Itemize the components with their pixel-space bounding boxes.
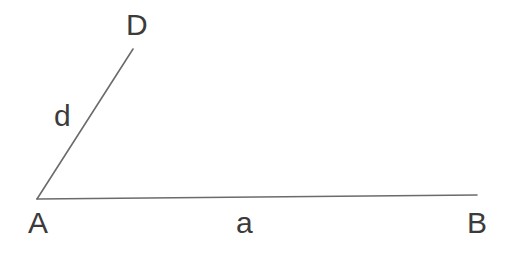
vertex-label-a-upper: A	[28, 208, 48, 238]
side-label-d: d	[54, 101, 71, 131]
geometry-figure	[0, 0, 512, 255]
segment-ad-line	[37, 49, 133, 199]
vertex-label-b-upper: B	[467, 208, 487, 238]
side-label-a: a	[236, 208, 253, 238]
segment-ab-line	[37, 195, 477, 199]
diagram-canvas: D d A a B	[0, 0, 512, 255]
vertex-label-d-upper: D	[126, 10, 148, 40]
